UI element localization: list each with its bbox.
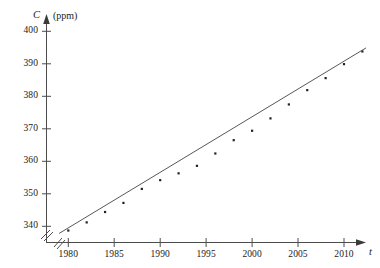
data-point <box>306 89 308 91</box>
xtick-label-1980: 1980 <box>51 249 85 259</box>
data-point <box>251 130 253 132</box>
data-point <box>159 179 161 181</box>
y-axis-unit-label: (ppm) <box>53 10 77 21</box>
ytick-label-350: 350 <box>12 188 38 198</box>
xtick-label-1985: 1985 <box>97 249 131 259</box>
scatter-points <box>67 50 363 231</box>
data-point <box>214 152 216 154</box>
data-point <box>269 117 271 119</box>
xtick-label-2010: 2010 <box>327 249 361 259</box>
co2-scatter-chart: 400 390 380 370 360 350 340 1980 1985 19… <box>0 0 380 268</box>
y-axis-arrow-icon <box>43 14 50 24</box>
xtick-label-1990: 1990 <box>143 249 177 259</box>
y-axis-label: C <box>33 9 40 20</box>
x-axis-break-icon <box>54 238 65 249</box>
ytick-label-380: 380 <box>12 90 38 100</box>
x-axis-label: t <box>369 246 372 257</box>
ytick-label-400: 400 <box>12 25 38 35</box>
xtick-label-2005: 2005 <box>281 249 315 259</box>
data-point <box>196 165 198 167</box>
data-series-layer <box>59 48 366 234</box>
regression-line <box>59 48 366 234</box>
ytick-label-370: 370 <box>12 123 38 133</box>
data-point <box>122 202 124 204</box>
data-point <box>67 229 69 231</box>
ytick-label-360: 360 <box>12 155 38 165</box>
ytick-label-390: 390 <box>12 58 38 68</box>
data-point <box>233 139 235 141</box>
x-axis-arrow-icon <box>356 239 366 246</box>
chart-plot-area <box>0 0 380 268</box>
xtick-label-1995: 1995 <box>189 249 223 259</box>
xtick-label-2000: 2000 <box>235 249 269 259</box>
data-point <box>104 211 106 213</box>
data-point <box>86 221 88 223</box>
data-point <box>288 103 290 105</box>
data-point <box>343 63 345 65</box>
data-point <box>141 188 143 190</box>
data-point <box>177 172 179 174</box>
ytick-label-340: 340 <box>12 220 38 230</box>
data-point <box>325 77 327 79</box>
